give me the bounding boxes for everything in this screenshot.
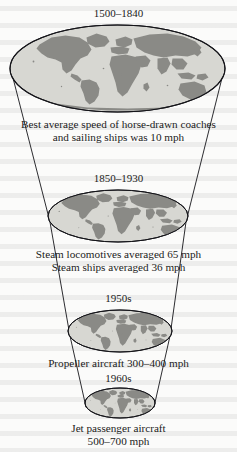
caption-propeller-aircraft: Propeller aircraft 300–400 mph — [0, 357, 237, 370]
globe-1850-1930 — [48, 190, 188, 243]
caption-horse-drawn-coaches: Best average speed of horse-drawn coache… — [0, 118, 237, 144]
globe-1960s — [85, 388, 155, 419]
caption-steam-locomotives-ships: Steam locomotives averaged 65 mph Steam … — [0, 248, 237, 274]
era-label-1850-1930: 1850–1930 — [0, 172, 237, 185]
caption-jet-passenger-aircraft: Jet passenger aircraft 500–700 mph — [0, 422, 237, 448]
era-label-1950s: 1950s — [0, 292, 237, 305]
era-label-1500-1840: 1500–1840 — [0, 7, 237, 20]
shrinking-world-figure: 1500–1840 Best average speed of horse-dr… — [0, 0, 237, 452]
globe-1500-1840 — [10, 25, 225, 112]
era-label-1960s: 1960s — [0, 372, 237, 385]
globe-1950s — [68, 310, 172, 353]
